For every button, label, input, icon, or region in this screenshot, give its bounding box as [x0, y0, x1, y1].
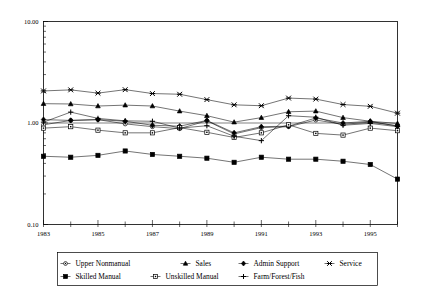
data-point	[340, 102, 345, 107]
data-point	[341, 159, 345, 163]
legend-item-skilled-manual[interactable]: Skilled Manual	[61, 272, 121, 281]
legend-item-service[interactable]: Service	[325, 259, 363, 268]
legend-label: Admin Support	[254, 259, 301, 268]
legend-item-upper-nonmanual[interactable]: Upper Nonmanual	[61, 259, 131, 268]
data-point	[204, 123, 209, 128]
data-point	[368, 104, 373, 109]
data-point	[69, 155, 73, 159]
data-point	[150, 152, 154, 156]
data-point	[123, 131, 127, 135]
legend-label: Upper Nonmanual	[76, 259, 131, 268]
data-point	[150, 91, 155, 96]
legend-label: Farm/Forest/Fish	[254, 272, 305, 281]
data-point	[68, 102, 73, 106]
chart-legend: Upper NonmanualSalesAdmin SupportService…	[58, 253, 378, 286]
data-point	[178, 154, 182, 158]
legend-item-admin-support[interactable]: Admin Support	[239, 259, 301, 268]
series-service	[41, 87, 400, 115]
data-point	[96, 153, 100, 157]
legend-label: Skilled Manual	[76, 272, 121, 281]
x-tick-label: 1985	[91, 230, 104, 237]
data-series-group	[41, 87, 400, 181]
legend-marker	[241, 261, 245, 266]
data-point	[205, 130, 209, 134]
data-point	[368, 162, 372, 166]
data-point	[95, 91, 100, 96]
x-tick-label: 1991	[255, 230, 268, 237]
data-point	[96, 128, 100, 132]
legend-item-sales[interactable]: Sales	[181, 259, 212, 268]
data-point	[150, 131, 154, 135]
series-admin-support	[41, 115, 399, 135]
data-point	[123, 103, 128, 107]
legend-item-farm-forest-fish[interactable]: Farm/Forest/Fish	[239, 272, 305, 281]
data-point	[123, 149, 127, 153]
legend-marker	[183, 261, 187, 265]
data-point	[231, 102, 236, 107]
data-point	[259, 131, 263, 135]
data-point	[286, 123, 290, 127]
line-chart: 10.001.000.10 19831985198719891991199319…	[0, 0, 427, 296]
data-point	[313, 109, 318, 113]
x-axis-ticks	[44, 220, 398, 227]
data-point	[286, 157, 290, 161]
legend-marker	[327, 261, 332, 266]
data-point	[204, 97, 209, 102]
legend-marker	[154, 275, 158, 279]
y-tick-label: 10.00	[24, 18, 39, 25]
x-tick-label: 1987	[146, 230, 160, 237]
legend-marker	[64, 262, 68, 266]
data-point	[41, 101, 46, 105]
chart-figure: 10.001.000.10 19831985198719891991199319…	[0, 0, 427, 296]
data-point	[232, 160, 236, 164]
data-point	[69, 125, 73, 129]
legend-label: Unskilled Manual	[166, 272, 219, 281]
legend-item-unskilled-manual[interactable]: Unskilled Manual	[151, 272, 219, 281]
data-point	[259, 103, 264, 108]
data-point	[177, 92, 182, 97]
data-point	[205, 156, 209, 160]
y-tick-label: 0.10	[27, 221, 38, 228]
legend-marker	[241, 274, 246, 279]
x-tick-label: 1983	[37, 230, 50, 237]
y-axis-tick-labels: 10.001.000.10	[24, 18, 39, 228]
data-point	[313, 97, 318, 102]
legend-label: Service	[340, 259, 363, 268]
legend-marker	[64, 275, 68, 279]
data-point	[314, 131, 318, 135]
data-point	[41, 126, 45, 130]
x-tick-label: 1993	[309, 230, 322, 237]
data-point	[68, 109, 73, 114]
data-point	[314, 157, 318, 161]
data-point	[69, 118, 73, 123]
data-point	[41, 154, 45, 158]
legend-label: Sales	[196, 259, 212, 268]
series-skilled-manual	[41, 149, 399, 181]
x-tick-label: 1989	[200, 230, 213, 237]
x-tick-label: 1995	[364, 230, 377, 237]
data-point	[122, 87, 127, 92]
data-point	[395, 177, 399, 181]
x-axis-tick-labels: 1983198519871989199119931995	[37, 230, 377, 237]
data-point	[341, 133, 345, 137]
data-point	[286, 109, 291, 113]
data-point	[368, 126, 372, 130]
y-tick-label: 1.00	[27, 119, 38, 126]
data-point	[259, 155, 263, 159]
data-point	[68, 87, 73, 92]
data-point	[286, 96, 291, 101]
